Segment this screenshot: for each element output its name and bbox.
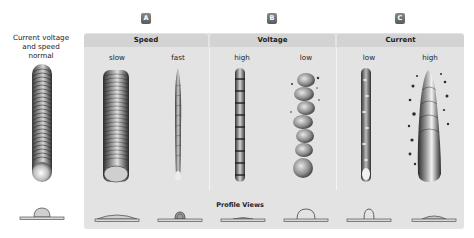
profile-current-high-icon bbox=[410, 207, 458, 223]
column-label-slow: slow bbox=[97, 53, 137, 62]
column-label-current-high: high bbox=[410, 53, 450, 62]
profile-voltage-low-icon bbox=[282, 207, 330, 223]
profile-voltage-high-icon bbox=[219, 207, 267, 223]
bead-current-high-image bbox=[405, 66, 451, 186]
column-label-fast: fast bbox=[158, 53, 198, 62]
badge-b: B bbox=[267, 13, 277, 24]
reference-bead-image bbox=[30, 62, 54, 186]
bead-voltage-high-image bbox=[233, 66, 247, 186]
group-header-voltage: Voltage bbox=[210, 34, 335, 47]
profile-speed-slow-icon bbox=[93, 207, 141, 223]
column-label-voltage-low: low bbox=[286, 53, 326, 62]
bead-current-low-image bbox=[359, 66, 373, 186]
badge-a: A bbox=[141, 13, 151, 24]
reference-label-line-3: normal bbox=[0, 51, 82, 60]
bead-voltage-low-image bbox=[288, 70, 322, 180]
group-header-current: Current bbox=[337, 34, 464, 47]
group-divider-1 bbox=[209, 48, 210, 190]
group-divider-2 bbox=[336, 48, 337, 190]
reference-profile-icon bbox=[18, 205, 66, 221]
column-label-current-low: low bbox=[349, 53, 389, 62]
bead-speed-slow-image bbox=[101, 68, 131, 186]
bead-speed-fast-image bbox=[172, 66, 184, 186]
group-header-speed: Speed bbox=[84, 34, 208, 47]
profile-speed-fast-icon bbox=[156, 207, 204, 223]
column-label-voltage-high: high bbox=[222, 53, 262, 62]
badge-c: C bbox=[395, 13, 405, 24]
profile-current-low-icon bbox=[345, 207, 393, 223]
reference-label: Current voltage and speed normal bbox=[0, 33, 82, 60]
reference-label-line-1: Current voltage bbox=[0, 33, 82, 42]
reference-label-line-2: and speed bbox=[0, 42, 82, 51]
